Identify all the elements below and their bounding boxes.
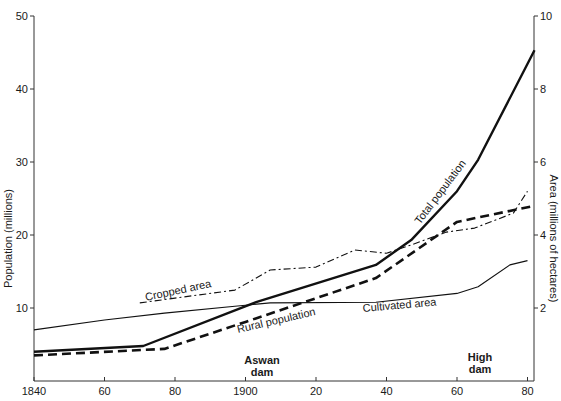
label-cultivated-area: Cultivated area [362,296,438,314]
x-tick-label: 1900 [233,385,257,397]
left-tick-label: 30 [16,156,28,168]
left-axis-title: Population (millions) [2,189,14,288]
left-tick-label: 50 [16,10,28,22]
x-tick-label: 40 [380,385,392,397]
annotation-high-line1: High [468,351,493,363]
right-tick-label: 6 [540,156,546,168]
x-tick-label: 20 [310,385,322,397]
label-total-population: Total population [412,157,468,226]
right-tick-label: 8 [540,83,546,95]
label-rural-population: Rural population [236,305,317,335]
x-tick-label: 1840 [22,385,46,397]
label-cropped-area: Cropped area [144,277,213,303]
right-tick-label: 10 [540,10,552,22]
left-tick-label: 10 [16,302,28,314]
x-tick-label: 80 [521,385,533,397]
series-rural-population [34,206,535,356]
annotation-aswan-line2: dam [251,366,274,378]
annotation-aswan-line1: Aswan [244,354,280,366]
right-axis-title: Area (millions of hectares) [548,175,560,303]
series-total-population [34,50,535,352]
x-tick-label: 60 [98,385,110,397]
chart: 102030405024681018406080190020406080Popu… [0,0,561,401]
series-group [34,50,535,355]
right-tick-label: 2 [540,302,546,314]
x-tick-label: 80 [169,385,181,397]
inline-labels: Total population Rural population Cultiv… [144,157,493,378]
axes: 102030405024681018406080190020406080Popu… [2,10,560,397]
x-tick-label: 60 [451,385,463,397]
left-tick-label: 20 [16,229,28,241]
right-tick-label: 4 [540,229,546,241]
annotation-high-line2: dam [469,363,492,375]
left-tick-label: 40 [16,83,28,95]
